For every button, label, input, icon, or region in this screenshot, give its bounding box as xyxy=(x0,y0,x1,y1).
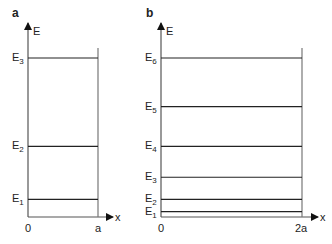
energy-level-label-1: E1 xyxy=(12,192,24,207)
panel-a-tick-a: a xyxy=(95,222,102,234)
panel-b-label: b xyxy=(146,6,153,20)
energy-level-label-2: E2 xyxy=(12,139,24,154)
panel-a-x-axis-label: x xyxy=(115,211,121,223)
energy-level-label-6: E6 xyxy=(145,51,157,66)
panel-a-tick-0: 0 xyxy=(25,222,31,234)
panel-a-y-axis-label: E xyxy=(33,25,40,37)
energy-level-label-3: E3 xyxy=(12,51,24,66)
panel-b-levels: E1E2E3E4E5E6 xyxy=(145,51,302,220)
energy-level-label-3: E3 xyxy=(145,170,157,185)
panel-a: a E x 0 a E1E2E3 xyxy=(12,6,121,234)
energy-level-label-4: E4 xyxy=(145,139,157,154)
energy-level-label-5: E5 xyxy=(145,100,157,115)
panel-a-levels: E1E2E3 xyxy=(12,51,98,207)
infinite-square-well-diagram: a E x 0 a E1E2E3 b E x 0 2a E1E2E3E4E5E6 xyxy=(0,0,332,244)
panel-b-tick-0: 0 xyxy=(158,222,164,234)
panel-b-y-axis-label: E xyxy=(166,25,173,37)
panel-b: b E x 0 2a E1E2E3E4E5E6 xyxy=(145,6,326,234)
panel-b-tick-2a: 2a xyxy=(295,222,308,234)
panel-a-label: a xyxy=(12,6,19,20)
panel-b-x-axis-label: x xyxy=(320,211,326,223)
